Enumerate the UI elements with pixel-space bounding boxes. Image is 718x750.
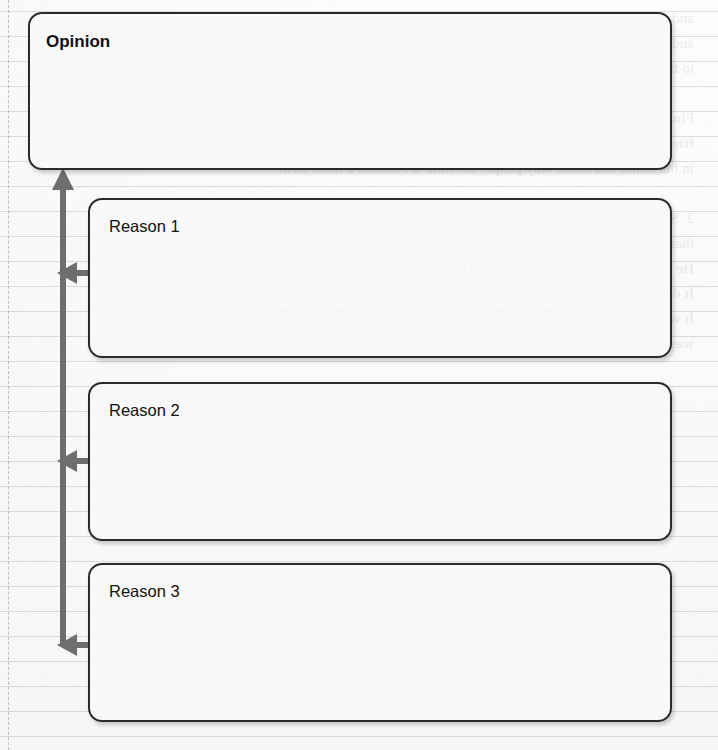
reason-2-box-label: Reason 2 xyxy=(109,401,180,420)
worksheet-page: and every once in a while I make sure to… xyxy=(0,0,718,750)
reason-3-box-label: Reason 3 xyxy=(109,582,180,601)
reason-3-box[interactable]: Reason 3 xyxy=(88,563,672,722)
opinion-box[interactable]: Opinion xyxy=(28,12,672,170)
reason-1-box-label: Reason 1 xyxy=(109,217,180,236)
opinion-box-label: Opinion xyxy=(46,32,110,52)
reason-1-box[interactable]: Reason 1 xyxy=(88,198,672,358)
reason-2-box[interactable]: Reason 2 xyxy=(88,382,672,541)
